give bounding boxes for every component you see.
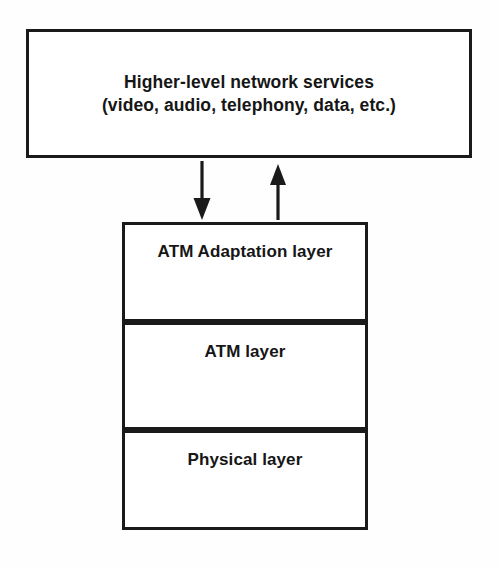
atm-protocol-stack: ATM Adaptation layer ATM layer Physical … <box>122 222 368 530</box>
atm-layer-box: ATM layer <box>122 322 368 430</box>
downward-arrow-head <box>194 198 211 220</box>
downward-arrow-icon <box>186 160 218 222</box>
atm-adaptation-layer-label: ATM Adaptation layer <box>158 241 333 263</box>
atm-layer-label: ATM layer <box>205 341 286 363</box>
upward-arrow-icon <box>262 162 294 222</box>
physical-layer-box: Physical layer <box>122 430 368 530</box>
upward-arrow-head <box>270 164 286 185</box>
higher-level-services-box: Higher-level network services (video, au… <box>26 29 472 158</box>
higher-level-services-label: Higher-level network services (video, au… <box>102 71 396 116</box>
atm-protocol-diagram: Higher-level network services (video, au… <box>0 0 498 569</box>
physical-layer-label: Physical layer <box>188 449 303 471</box>
atm-adaptation-layer-box: ATM Adaptation layer <box>122 222 368 322</box>
